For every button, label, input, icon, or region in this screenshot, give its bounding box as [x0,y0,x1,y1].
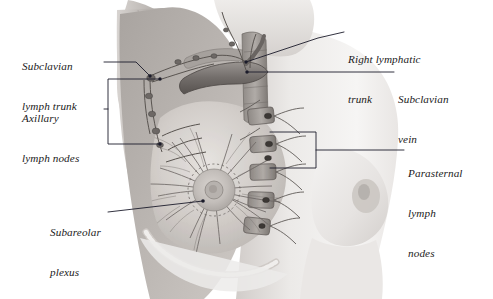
label-line: Subclavian [22,60,77,73]
label-line: Axillary [22,112,79,125]
label-line: lymph nodes [22,152,79,165]
contralateral-nipple [358,184,370,200]
label-axillary-lymph-nodes: Axillary lymph nodes [22,85,79,179]
label-line: lymph [408,207,463,220]
label-subareolar-plexus: Subareolar plexus [50,199,101,293]
label-line: Parasternal [408,167,463,180]
label-line: nodes [408,247,463,260]
label-line: Subclavian [398,93,449,106]
abdomen [300,238,383,299]
label-line: Subareolar [50,226,101,239]
label-line: plexus [50,266,101,279]
label-parasternal-lymph-nodes: Parasternal lymph nodes [408,140,463,274]
label-line: Right lymphatic [348,53,421,66]
